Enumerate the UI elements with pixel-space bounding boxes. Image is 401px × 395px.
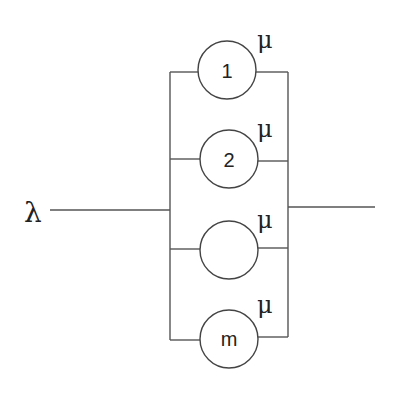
server-1-label: 1 — [221, 60, 232, 82]
mmm-queue-diagram: 1 2 m μ μ μ μ λ — [0, 0, 401, 395]
server-3 — [200, 221, 258, 279]
mu-label-m: μ — [257, 291, 273, 319]
server-m: m — [200, 310, 258, 368]
mu-label-2: μ — [257, 115, 273, 143]
mu-label-1: μ — [257, 26, 273, 54]
server-2: 2 — [200, 130, 258, 188]
lambda-label: λ — [24, 196, 42, 229]
server-1: 1 — [198, 41, 256, 99]
server-m-label: m — [221, 328, 238, 350]
mu-label-3: μ — [257, 206, 273, 234]
server-2-label: 2 — [223, 149, 234, 171]
